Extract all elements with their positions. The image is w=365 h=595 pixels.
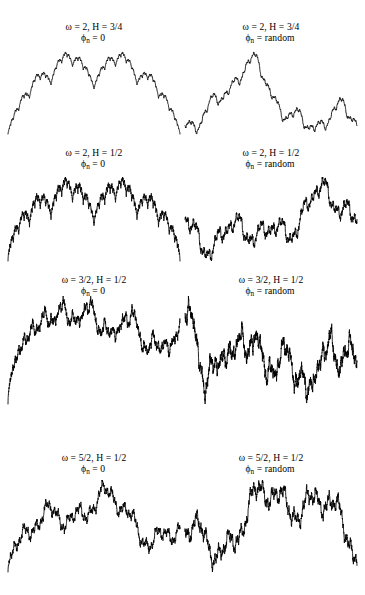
panel-1-plot-area [8,48,180,138]
panel-7-caption: ω = 5/2, H = 1/2 ϕn = 0 [8,453,180,475]
panel-6-plot-area [185,291,357,409]
panel-7-curve [8,475,180,577]
panel-5-plot-area [8,291,180,409]
phi-value: = random [254,463,294,474]
phi-value: = 0 [90,158,105,169]
panel-2-plot-area [185,48,357,138]
panel-3: ω = 2, H = 1/2 ϕn = 0 [8,148,180,266]
panel-8-curve-path [185,480,357,572]
panel-7-curve-path [8,480,180,572]
panel-6-curve-path [185,296,357,404]
panel-3-caption-line2: ϕn = 0 [8,159,180,171]
phi-symbol: ϕ [245,32,250,43]
panel-4-curve [185,173,357,265]
panel-7-plot-area [8,475,180,577]
phi-subscript: n [251,36,255,44]
phi-value: = 0 [90,32,105,43]
panel-4-caption-line1: ω = 2, H = 1/2 [185,148,357,159]
panel-8: ω = 5/2, H = 1/2 ϕn = random [185,453,357,583]
phi-value: = 0 [90,463,105,474]
panel-5: ω = 3/2, H = 1/2 ϕn = 0 [8,275,180,415]
panel-1-curve [8,48,180,138]
panel-7-caption-line2: ϕn = 0 [8,464,180,476]
panel-7: ω = 5/2, H = 1/2 ϕn = 0 [8,453,180,583]
panel-2-caption: ω = 2, H = 3/4 ϕn = random [185,22,357,44]
panel-2-caption-line1: ω = 2, H = 3/4 [185,22,357,33]
panel-4-curve-path [185,177,357,261]
panel-8-curve [185,475,357,577]
panel-6-curve [185,291,357,409]
panel-2-caption-line2: ϕn = random [185,33,357,45]
panel-5-curve [8,291,180,409]
panel-3-plot-area [8,173,180,265]
panel-1-caption: ω = 2, H = 3/4 ϕn = 0 [8,22,180,44]
panel-4-caption-line2: ϕn = random [185,159,357,171]
panel-8-caption-line2: ϕn = random [185,464,357,476]
phi-symbol: ϕ [81,32,86,43]
phi-subscript: n [86,162,90,170]
figure-canvas: ω = 2, H = 3/4 ϕn = 0 ω = 2, H = 3/4 ϕn … [0,0,365,595]
phi-symbol: ϕ [81,158,86,169]
panel-6-caption-line1: ω = 3/2, H = 1/2 [185,275,357,286]
panel-8-caption: ω = 5/2, H = 1/2 ϕn = random [185,453,357,475]
panel-1-caption-line2: ϕn = 0 [8,33,180,45]
panel-3-curve [8,173,180,265]
panel-4-plot-area [185,173,357,265]
panel-8-caption-line1: ω = 5/2, H = 1/2 [185,453,357,464]
phi-subscript: n [86,36,90,44]
panel-2-curve-path [185,52,357,134]
panel-3-caption: ω = 2, H = 1/2 ϕn = 0 [8,148,180,170]
panel-5-caption-line1: ω = 3/2, H = 1/2 [8,275,180,286]
panel-2: ω = 2, H = 3/4 ϕn = random [185,22,357,140]
panel-2-curve [185,48,357,138]
phi-value: = random [254,32,294,43]
phi-symbol: ϕ [245,158,250,169]
phi-symbol: ϕ [81,463,86,474]
panel-8-plot-area [185,475,357,577]
panel-4: ω = 2, H = 1/2 ϕn = random [185,148,357,266]
panel-3-caption-line1: ω = 2, H = 1/2 [8,148,180,159]
panel-4-caption: ω = 2, H = 1/2 ϕn = random [185,148,357,170]
phi-subscript: n [251,162,255,170]
panel-5-curve-path [8,296,180,404]
phi-symbol: ϕ [245,463,250,474]
panel-1-caption-line1: ω = 2, H = 3/4 [8,22,180,33]
panel-1: ω = 2, H = 3/4 ϕn = 0 [8,22,180,140]
panel-7-caption-line1: ω = 5/2, H = 1/2 [8,453,180,464]
panel-3-curve-path [8,177,180,261]
panel-6: ω = 3/2, H = 1/2 ϕn = random [185,275,357,415]
phi-value: = random [254,158,294,169]
panel-1-curve-path [8,52,180,134]
